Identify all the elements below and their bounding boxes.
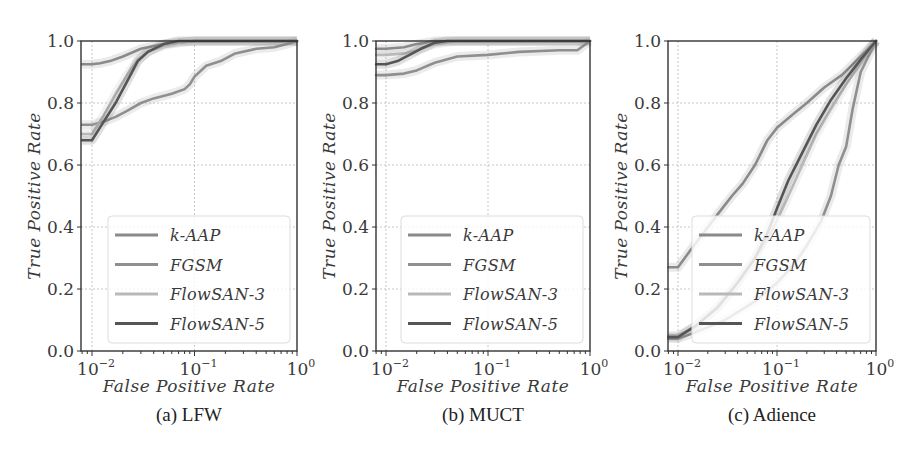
panel-muct: 0.00.20.40.60.81.010−210−1100False Posit…	[319, 31, 608, 426]
caption-lfw: (a) LFW	[156, 404, 222, 426]
legend: k-AAPFGSMFlowSAN-3FlowSAN-5	[401, 216, 583, 343]
series-group	[376, 41, 590, 75]
caption-muct: (b) MUCT	[442, 404, 524, 426]
x-axis-ticks: 10−210−1100	[663, 351, 894, 379]
legend-label: FGSM	[753, 256, 807, 275]
x-axis-label: False Positive Rate	[396, 376, 570, 396]
y-tick-label: 0.6	[47, 155, 74, 175]
legend-label: FlowSAN-3	[753, 285, 849, 304]
series-group	[82, 41, 297, 140]
legend-label: k-AAP	[754, 226, 805, 245]
y-tick-label: 0.0	[634, 341, 661, 361]
y-tick-label: 1.0	[634, 31, 661, 51]
legend-label: FlowSAN-5	[169, 315, 265, 334]
y-axis-label: True Positive Rate	[611, 112, 631, 280]
y-axis-label: True Positive Rate	[24, 112, 44, 280]
y-tick-label: 0.6	[342, 155, 369, 175]
legend-label: k-AAP	[463, 226, 514, 245]
x-axis-label: False Positive Rate	[685, 376, 859, 396]
roc-figure: 0.00.20.40.60.81.010−210−1100False Posit…	[0, 0, 914, 457]
legend: k-AAPFGSMFlowSAN-3FlowSAN-5	[108, 216, 290, 343]
legend-label: k-AAP	[170, 226, 221, 245]
y-axis-ticks: 0.00.20.40.60.81.0	[634, 31, 668, 361]
y-tick-label: 0.2	[47, 279, 74, 299]
x-tick-label: 100	[287, 357, 316, 379]
x-tick-label: 100	[580, 357, 609, 379]
legend-label: FGSM	[462, 256, 516, 275]
legend-label: FlowSAN-5	[462, 315, 558, 334]
y-axis-ticks: 0.00.20.40.60.81.0	[342, 31, 376, 361]
legend-label: FGSM	[169, 256, 223, 275]
y-axis-label: True Positive Rate	[319, 112, 339, 280]
y-tick-label: 0.0	[342, 341, 369, 361]
y-tick-label: 0.8	[47, 93, 74, 113]
x-axis-ticks: 10−210−1100	[371, 351, 608, 379]
y-tick-label: 0.4	[634, 217, 661, 237]
panel-adience: 0.00.20.40.60.81.010−210−1100False Posit…	[611, 31, 894, 426]
y-axis-ticks: 0.00.20.40.60.81.0	[47, 31, 81, 361]
y-tick-label: 0.4	[342, 217, 369, 237]
legend-label: FlowSAN-5	[753, 315, 849, 334]
x-axis-ticks: 10−210−1100	[77, 351, 315, 379]
legend: k-AAPFGSMFlowSAN-3FlowSAN-5	[692, 216, 870, 343]
y-tick-label: 0.6	[634, 155, 661, 175]
y-tick-label: 0.2	[342, 279, 369, 299]
y-tick-label: 0.8	[342, 93, 369, 113]
y-tick-label: 0.2	[634, 279, 661, 299]
y-tick-label: 0.4	[47, 217, 74, 237]
y-tick-label: 0.0	[47, 341, 74, 361]
legend-label: FlowSAN-3	[462, 285, 558, 304]
y-tick-label: 1.0	[342, 31, 369, 51]
x-tick-label: 100	[866, 357, 895, 379]
panel-lfw: 0.00.20.40.60.81.010−210−1100False Posit…	[24, 31, 315, 426]
x-axis-label: False Positive Rate	[102, 376, 276, 396]
y-tick-label: 0.8	[634, 93, 661, 113]
legend-label: FlowSAN-3	[169, 285, 265, 304]
y-tick-label: 1.0	[47, 31, 74, 51]
caption-adience: (c) Adience	[728, 404, 816, 426]
